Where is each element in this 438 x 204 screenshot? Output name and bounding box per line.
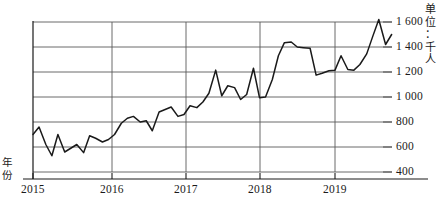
xtick-label-2016: 2016 bbox=[100, 184, 124, 196]
unit-char-5: 人 bbox=[423, 54, 437, 67]
x-axis-title-char-2: 份 bbox=[2, 170, 18, 181]
xtick-label-2019: 2019 bbox=[323, 184, 347, 196]
ytick-label-1600: 1 600 bbox=[396, 16, 423, 28]
data-series-group bbox=[33, 20, 392, 156]
ytick-label-1400: 1 400 bbox=[396, 41, 423, 53]
unit-annotation: 单 位 ： 千 人 bbox=[423, 4, 437, 67]
unit-char-1: 单 bbox=[423, 4, 437, 17]
line-chart: 1 6001 4001 2001 000800600400 2015201620… bbox=[0, 0, 438, 204]
xtick-label-2017: 2017 bbox=[174, 184, 198, 196]
xtick-label-2018: 2018 bbox=[248, 184, 272, 196]
ytick-label-1200: 1 200 bbox=[396, 66, 423, 78]
series-line-0 bbox=[33, 20, 392, 156]
ytick-label-1000: 1 000 bbox=[396, 91, 423, 103]
xtick-label-2015: 2015 bbox=[21, 184, 45, 196]
ytick-label-400: 400 bbox=[396, 166, 414, 178]
ytick-label-600: 600 bbox=[396, 141, 414, 153]
axis-tick-marks bbox=[33, 22, 392, 179]
axis-lines bbox=[23, 21, 428, 179]
unit-char-3: ： bbox=[423, 29, 437, 42]
ytick-label-800: 800 bbox=[396, 116, 414, 128]
x-axis-title-char-1: 年 bbox=[2, 157, 18, 168]
x-axis-title: 年 份 bbox=[2, 157, 18, 180]
chart-plot-area bbox=[0, 0, 438, 204]
